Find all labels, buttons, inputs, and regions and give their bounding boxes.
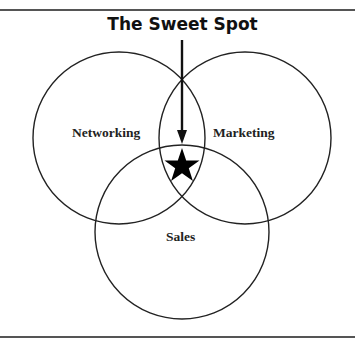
sales-label: Sales	[166, 229, 195, 245]
marketing-label: Marketing	[213, 125, 275, 141]
star-icon	[165, 148, 200, 181]
arrow-icon	[177, 40, 187, 144]
networking-label: Networking	[72, 125, 140, 141]
venn-diagram	[0, 0, 355, 338]
